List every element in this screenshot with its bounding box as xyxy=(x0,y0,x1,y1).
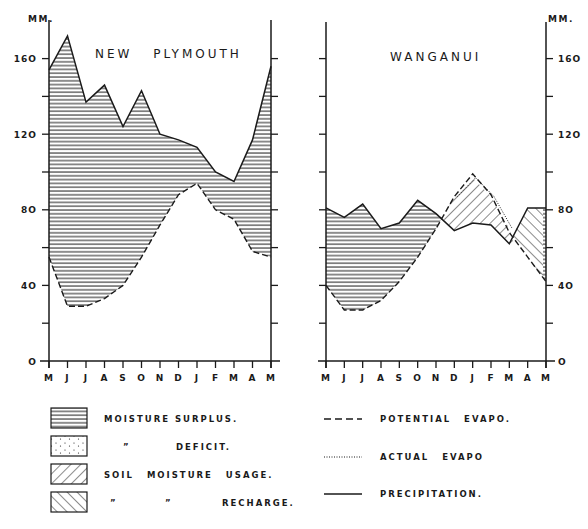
y-tick-label: 8O xyxy=(21,205,37,215)
svg-text:SOIL MOISTURE USAGE.: SOIL MOISTURE USAGE. xyxy=(104,470,273,480)
horizontal-hatch-swatch xyxy=(51,408,87,428)
legend-soil-moisture-usage: SOIL MOISTURE USAGE. xyxy=(51,464,273,484)
water-balance-chart: MJJASONDJFMAMO4O8O12O16O MM. NEW PLYMOUT… xyxy=(0,0,588,529)
y-tick-label: 16O xyxy=(558,54,581,64)
y-tick-label: O xyxy=(558,357,567,367)
month-label: N xyxy=(156,373,165,383)
month-label: O xyxy=(413,373,422,383)
month-label: J xyxy=(83,373,88,383)
svg-text:ACTUAL EVAPO: ACTUAL EVAPO xyxy=(380,452,484,462)
left-panel-title: NEW PLYMOUTH xyxy=(95,47,242,61)
y-tick-label: O xyxy=(28,357,37,367)
svg-text:PRECIPITATION.: PRECIPITATION. xyxy=(380,489,483,499)
wanganui-panel: MJJASONDJFMAMO4O8O12O16O MM. WANGANUI xyxy=(318,14,581,383)
month-label: J xyxy=(341,373,346,383)
month-label: M xyxy=(504,373,514,383)
month-label: F xyxy=(487,373,494,383)
month-label: A xyxy=(377,373,385,383)
month-label: A xyxy=(249,373,257,383)
legend-actual-evapo: ACTUAL EVAPO xyxy=(324,452,484,462)
month-label: D xyxy=(450,373,458,383)
y-tick-label: 4O xyxy=(558,281,574,291)
svg-text:”: ” xyxy=(110,498,118,508)
month-label: A xyxy=(101,373,109,383)
moisture-surplus-area xyxy=(49,36,271,306)
svg-text:DEFICIT.: DEFICIT. xyxy=(176,442,231,452)
right-unit-label: MM. xyxy=(548,14,574,24)
soil-moisture-usage-area xyxy=(442,178,513,244)
month-label: D xyxy=(174,373,182,383)
month-label: M xyxy=(229,373,239,383)
month-label: M xyxy=(541,373,551,383)
month-label: J xyxy=(194,373,199,383)
month-label: J xyxy=(469,373,474,383)
svg-text:POTENTIAL EVAPO.: POTENTIAL EVAPO. xyxy=(380,414,511,424)
month-label: M xyxy=(266,373,276,383)
y-tick-label: 4O xyxy=(21,281,37,291)
y-tick-label: 12O xyxy=(558,130,581,140)
month-label: S xyxy=(396,373,403,383)
svg-text:”: ” xyxy=(165,498,173,508)
legend: MOISTURE SURPLUS. ” DEFICIT. SOIL MOISTU… xyxy=(51,408,511,512)
dotted-swatch xyxy=(51,436,87,456)
month-label: O xyxy=(137,373,146,383)
month-label: J xyxy=(359,373,364,383)
y-tick-label: 16O xyxy=(14,54,37,64)
month-label: N xyxy=(432,373,441,383)
y-tick-label: 8O xyxy=(558,205,574,215)
svg-text:MOISTURE SURPLUS.: MOISTURE SURPLUS. xyxy=(104,414,238,424)
left-unit-label: MM. xyxy=(28,14,54,24)
svg-text:”: ” xyxy=(123,442,131,452)
right-panel-title: WANGANUI xyxy=(390,50,481,64)
month-label: A xyxy=(524,373,532,383)
svg-text:RECHARGE.: RECHARGE. xyxy=(222,498,295,508)
legend-moisture-surplus: MOISTURE SURPLUS. xyxy=(51,408,238,428)
y-tick-label: 12O xyxy=(14,130,37,140)
new-plymouth-panel: MJJASONDJFMAMO4O8O12O16O MM. NEW PLYMOUT… xyxy=(14,14,280,383)
month-label: M xyxy=(44,373,54,383)
legend-precipitation: PRECIPITATION. xyxy=(324,489,483,499)
legend-recharge: ” ” RECHARGE. xyxy=(51,492,295,512)
backslash-hatch-swatch xyxy=(51,464,87,484)
slash-hatch-swatch xyxy=(51,492,87,512)
month-label: S xyxy=(119,373,126,383)
legend-potential-evapo: POTENTIAL EVAPO. xyxy=(324,414,511,424)
month-label: F xyxy=(212,373,219,383)
month-label: J xyxy=(64,373,69,383)
month-label: M xyxy=(321,373,331,383)
legend-deficit: ” DEFICIT. xyxy=(51,436,231,456)
